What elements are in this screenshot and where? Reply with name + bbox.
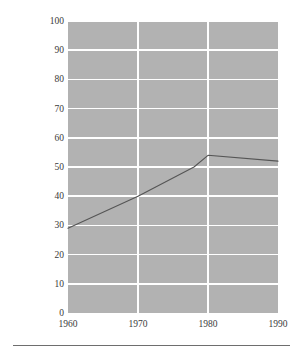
y-tick-label: 50 — [34, 162, 64, 172]
y-tick-label: 40 — [34, 191, 64, 201]
chart-figure: Total Federal Expenditures for Social We… — [0, 0, 300, 354]
y-tick-label: 100 — [34, 16, 64, 26]
x-tick-label: 1970 — [108, 318, 168, 330]
plot-area — [68, 21, 278, 313]
y-axis-tick-labels: 0102030405060708090100 — [34, 0, 64, 354]
bottom-divider — [13, 345, 290, 346]
y-tick-label: 10 — [34, 279, 64, 289]
y-tick-label: 60 — [34, 133, 64, 143]
x-tick-label: 1980 — [178, 318, 238, 330]
y-tick-label: 30 — [34, 220, 64, 230]
data-series-line — [68, 21, 278, 313]
y-tick-label: 90 — [34, 45, 64, 55]
y-tick-label: 80 — [34, 74, 64, 84]
series-polyline — [68, 155, 278, 228]
x-tick-label: 1990 — [248, 318, 300, 330]
y-tick-label: 20 — [34, 250, 64, 260]
y-tick-label: 0 — [34, 308, 64, 318]
y-tick-label: 70 — [34, 104, 64, 114]
x-tick-label: 1960 — [38, 318, 98, 330]
x-axis-tick-labels: 1960197019801990 — [0, 318, 300, 334]
